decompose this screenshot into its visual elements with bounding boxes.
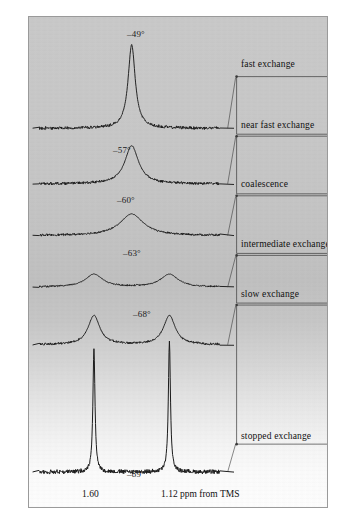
bracket-leader-fast-exchange — [228, 78, 236, 129]
bracket-node-stopped-exchange — [235, 443, 238, 446]
bracket-node-near-fast-exchange — [235, 135, 238, 138]
axis-label-right-shift: 1.12 ppm from TMS — [161, 489, 239, 499]
regime-label-slow-exchange: slow exchange — [241, 289, 299, 299]
bracket-leader-coalescence — [228, 197, 236, 236]
spectrum-trace-1 — [33, 44, 234, 129]
temperature-label-2: –57° — [113, 145, 131, 155]
regime-label-intermediate-exchange: intermediate exchange — [241, 239, 328, 249]
bracket-node-coalescence — [235, 195, 238, 198]
temperature-label-6: –89° — [127, 469, 145, 479]
bracket-node-slow-exchange — [235, 304, 238, 307]
spectrum-trace-2 — [33, 146, 234, 185]
regime-label-fast-exchange: fast exchange — [241, 59, 295, 69]
temperature-label-1: –49° — [127, 29, 145, 39]
regime-label-near-fast-exchange: near fast exchange — [241, 120, 314, 130]
spectrum-trace-5 — [33, 315, 234, 345]
bracket-node-intermediate-exchange — [235, 254, 238, 257]
regime-label-stopped-exchange: stopped exchange — [241, 431, 311, 441]
spectra-plate: –49° –57° –60° –63° –68° –89° fast excha… — [28, 16, 328, 508]
axis-label-left-shift: 1.60 — [82, 489, 99, 499]
nmr-exchange-figure: –49° –57° –60° –63° –68° –89° fast excha… — [0, 0, 356, 526]
spectrum-trace-3 — [33, 214, 234, 236]
temperature-label-5: –68° — [133, 309, 151, 319]
bracket-leader-stopped-exchange — [228, 444, 236, 472]
bracket-node-fast-exchange — [235, 75, 238, 78]
temperature-label-3: –60° — [117, 195, 135, 205]
bracket-leader-slow-exchange — [228, 306, 236, 345]
bracket-leader-intermediate-exchange — [228, 256, 236, 287]
spectrum-trace-6 — [33, 341, 234, 474]
temperature-label-4: –63° — [123, 248, 141, 258]
regime-label-coalescence: coalescence — [241, 179, 288, 189]
spectrum-trace-4 — [33, 274, 234, 288]
bracket-leader-near-fast-exchange — [228, 137, 236, 184]
